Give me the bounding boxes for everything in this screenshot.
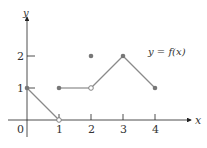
function-graph: x y 0 1 2 3 4 1 2 y = f(x) bbox=[0, 0, 207, 148]
open-points bbox=[57, 86, 94, 123]
closed-point-4-1 bbox=[153, 86, 158, 91]
closed-point-1-1 bbox=[57, 86, 62, 91]
closed-points bbox=[25, 54, 158, 91]
segment-0-1 bbox=[27, 88, 59, 120]
y-tick-label-2: 2 bbox=[17, 50, 24, 63]
x-tick-label-1: 1 bbox=[56, 123, 63, 136]
function-label: y = f(x) bbox=[147, 46, 186, 57]
x-tick-label-3: 3 bbox=[120, 123, 127, 136]
segment-3-4 bbox=[123, 56, 155, 88]
x-tick-label-2: 2 bbox=[88, 123, 95, 136]
closed-point-3-2 bbox=[121, 54, 126, 59]
open-point-2-1 bbox=[89, 86, 94, 91]
y-tick-label-1: 1 bbox=[17, 82, 24, 95]
y-ticks bbox=[27, 56, 35, 88]
segment-2-3 bbox=[91, 56, 123, 88]
closed-point-2-2 bbox=[89, 54, 94, 59]
closed-point-0-1 bbox=[25, 86, 30, 91]
x-tick-label-4: 4 bbox=[152, 123, 159, 136]
x-axis-label: x bbox=[195, 114, 202, 127]
open-point-1-0 bbox=[57, 118, 62, 123]
origin-label: 0 bbox=[17, 123, 24, 136]
x-ticks bbox=[59, 114, 155, 120]
y-axis-label: y bbox=[22, 7, 29, 18]
